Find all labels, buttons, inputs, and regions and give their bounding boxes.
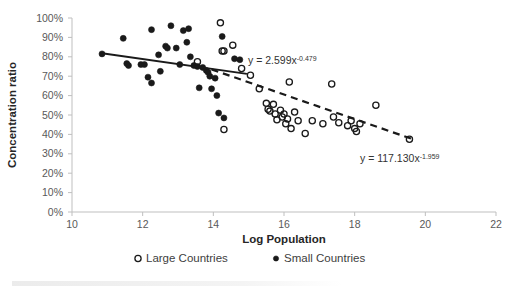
data-point: [126, 63, 132, 69]
scatter-plot: 0%10%20%30%40%50%60%70%80%90%100% 101214…: [0, 0, 513, 286]
data-point: [237, 57, 243, 63]
data-point: [149, 80, 155, 86]
y-tick-label: 100%: [36, 12, 63, 24]
y-tick-label: 30%: [42, 147, 63, 159]
data-point: [295, 118, 301, 124]
legend-item-large-countries[interactable]: Large Countries: [135, 252, 228, 264]
data-point: [157, 68, 163, 74]
data-point: [277, 107, 283, 113]
caption-fragment: [12, 281, 342, 286]
data-point: [156, 52, 162, 58]
data-point: [221, 126, 227, 132]
y-tick-label: 90%: [42, 31, 63, 43]
y-tick-label: 60%: [42, 89, 63, 101]
data-point: [186, 26, 192, 32]
data-point: [145, 74, 151, 80]
x-tick-label: 18: [349, 218, 361, 230]
legend-label: Small Countries: [284, 252, 365, 264]
data-point: [164, 45, 170, 51]
x-tick-label: 14: [207, 218, 219, 230]
chart-legend: Large CountriesSmall Countries: [135, 252, 366, 264]
data-point: [173, 45, 179, 51]
series-small-countries: [99, 23, 243, 121]
y-tick-label: 0%: [48, 206, 63, 218]
data-point: [149, 27, 155, 33]
data-point: [221, 115, 227, 121]
series-large-countries: [194, 20, 412, 143]
data-point: [216, 110, 222, 116]
data-point: [373, 102, 379, 108]
x-tick-label: 10: [66, 218, 78, 230]
equation-small: y = 2.599x-0.479: [248, 54, 317, 66]
data-point: [187, 54, 193, 60]
data-point: [286, 79, 292, 85]
x-tick-label: 20: [419, 218, 431, 230]
data-point: [309, 118, 315, 124]
y-tick-label: 40%: [42, 128, 63, 140]
y-tick-label: 10%: [42, 186, 63, 198]
data-point: [168, 23, 174, 29]
trendlines-layer: [102, 53, 411, 138]
legend-label: Large Countries: [146, 252, 228, 264]
x-tick-label: 12: [137, 218, 149, 230]
data-point: [209, 86, 215, 92]
x-axis-tick-labels: 10121416182022: [66, 218, 502, 230]
data-point: [329, 81, 335, 87]
filled-circle-icon: [273, 256, 278, 261]
data-point: [247, 72, 253, 78]
data-point: [302, 130, 308, 136]
data-point: [214, 93, 220, 99]
data-point: [239, 65, 245, 71]
x-tick-label: 22: [490, 218, 502, 230]
data-point: [196, 85, 202, 91]
y-tick-label: 80%: [42, 50, 63, 62]
open-circle-icon: [135, 255, 141, 261]
y-axis-tick-labels: 0%10%20%30%40%50%60%70%80%90%100%: [36, 12, 63, 218]
y-tick-label: 20%: [42, 167, 63, 179]
y-axis-title: Concentration ratio: [6, 62, 18, 168]
data-points-layer: [99, 20, 413, 143]
y-tick-label: 70%: [42, 70, 63, 82]
data-point: [232, 56, 238, 62]
y-tick-label: 50%: [42, 109, 63, 121]
large-countries-trendline: [212, 69, 412, 138]
data-point: [330, 114, 336, 120]
data-point: [288, 125, 294, 131]
data-point: [270, 101, 276, 107]
chart-container: 0%10%20%30%40%50%60%70%80%90%100% 101214…: [0, 0, 513, 286]
x-axis-title: Log Population: [242, 233, 326, 245]
equation-annotations: y = 2.599x-0.479y = 117.130x-1.959: [248, 54, 440, 164]
data-point: [336, 120, 342, 126]
data-point: [230, 42, 236, 48]
data-point: [320, 121, 326, 127]
data-point: [217, 20, 223, 26]
x-tick-label: 16: [278, 218, 290, 230]
data-point: [120, 35, 126, 41]
equation-large: y = 117.130x-1.959: [360, 152, 440, 164]
data-point: [212, 75, 218, 81]
legend-item-small-countries[interactable]: Small Countries: [273, 252, 365, 264]
data-point: [184, 39, 190, 45]
data-point: [141, 62, 147, 68]
data-point: [219, 33, 225, 39]
data-point: [292, 109, 298, 115]
